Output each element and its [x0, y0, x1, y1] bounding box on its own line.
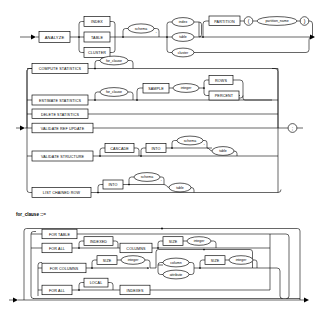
- dot-separator: .: [156, 28, 157, 34]
- placeholder-index-name: index: [172, 18, 194, 27]
- cascade-label: CASCADE: [110, 147, 129, 151]
- for-all-label-2: FOR ALL: [49, 289, 65, 293]
- exit-arrow-3: [300, 298, 309, 303]
- placeholder-cluster-name: cluster: [172, 48, 194, 57]
- keyword-size-3: SIZE: [205, 256, 225, 265]
- operation-estimate-statistics: ESTIMATE STATISTICS: [27, 95, 88, 105]
- semicolon-label: ;: [292, 125, 293, 131]
- for-clause-label: for_clause: [106, 59, 122, 63]
- objecttype-cluster: CLUSTER: [84, 48, 110, 58]
- operation-validate-structure: VALIDATE STRUCTURE: [27, 151, 93, 161]
- schema-label: schema: [135, 27, 147, 31]
- size-label-3: SIZE: [211, 259, 220, 263]
- table-label: TABLE: [91, 36, 103, 40]
- keyword-local: LOCAL: [84, 278, 108, 287]
- placeholder-table-2: table: [212, 147, 234, 156]
- keyword-size-2: SIZE: [97, 256, 117, 265]
- placeholder-attribute: attribute: [163, 270, 189, 279]
- indexes-label: INDEXES: [126, 289, 143, 293]
- branch-for-table: FOR TABLE: [31, 229, 77, 239]
- entry-arrow-3: [9, 298, 18, 303]
- integer-label: integer: [181, 86, 193, 90]
- partition-label: PARTITION: [214, 20, 235, 24]
- table-label-2: table: [219, 149, 227, 153]
- placeholder-table-3: table: [169, 183, 191, 192]
- placeholder-column: column: [163, 258, 189, 267]
- dot-separator-3: .: [161, 176, 162, 182]
- keyword-size-1: SIZE: [163, 237, 183, 246]
- placeholder-table-name: table: [172, 33, 194, 42]
- table-label-3: table: [176, 186, 184, 190]
- table-name-label: table: [179, 35, 187, 39]
- for-all-label-1: FOR ALL: [49, 247, 65, 251]
- placeholder-schema-3: schema: [134, 173, 160, 182]
- analyze-label: ANALYZE: [45, 35, 65, 40]
- validate-structure-label: VALIDATE STRUCTURE: [41, 155, 85, 159]
- sample-label: SAMPLE: [148, 87, 164, 91]
- index-name-label: index: [179, 20, 188, 24]
- partition-name-label: partition_name: [265, 19, 288, 23]
- for-table-label: FOR TABLE: [49, 233, 71, 237]
- entry-arrow-2: [16, 126, 25, 131]
- keyword-columns-1: COLUMNS: [120, 243, 152, 253]
- compute-statistics-label: COMPUTE STATISTICS: [39, 67, 82, 71]
- schema-label-3: schema: [141, 175, 153, 179]
- branch-for-columns: FOR COLUMNS: [38, 263, 86, 273]
- schema-label-2: schema: [184, 139, 196, 143]
- rows-label: ROWS: [215, 79, 227, 83]
- operation-validate-ref-update: VALIDATE REF UPDATE: [32, 123, 93, 133]
- keyword-cascade: CASCADE: [105, 144, 134, 153]
- into-label-2: INTO: [108, 183, 117, 187]
- placeholder-integer-3: integer: [229, 256, 253, 265]
- keyword-sample: SAMPLE: [143, 84, 169, 94]
- objecttype-index: INDEX: [84, 17, 110, 27]
- delete-statistics-label: DELETE STATISTICS: [41, 113, 80, 117]
- section-operations: COMPUTE STATISTICS for_clause ESTIMATE S…: [16, 56, 303, 197]
- operation-delete-statistics: DELETE STATISTICS: [27, 109, 88, 119]
- objecttype-table: TABLE: [84, 32, 110, 42]
- columns-label-1: COLUMNS: [126, 247, 146, 251]
- junction-dot: [147, 267, 149, 269]
- keyword-indexed: INDEXED: [84, 237, 113, 246]
- paren-close-1: ): [300, 17, 309, 26]
- keyword-rows: ROWS: [209, 76, 233, 85]
- cluster-name-label: cluster: [178, 51, 189, 55]
- percent-label: PERCENT: [215, 94, 234, 98]
- for-columns-label: FOR COLUMNS: [50, 267, 79, 271]
- placeholder-integer-1: integer: [187, 237, 211, 246]
- placeholder-integer-sample: integer: [173, 84, 199, 93]
- terminator-semicolon: ;: [288, 124, 297, 133]
- placeholder-integer-2: integer: [121, 256, 145, 265]
- keyword-analyze: ANALYZE: [39, 32, 70, 43]
- validate-ref-update-label: VALIDATE REF UPDATE: [41, 127, 85, 131]
- into-label-1: INTO: [151, 147, 160, 151]
- placeholder-partition-name: partition_name: [257, 17, 297, 26]
- for-clause-section-label: for_clause ::=: [16, 212, 46, 217]
- branch-for-all-indexed-columns: FOR ALL: [31, 243, 72, 253]
- keyword-partition: PARTITION: [209, 16, 240, 26]
- integer-label-1: integer: [194, 239, 206, 243]
- loop-junction-dot-2: [203, 249, 205, 251]
- operation-list-chained-row: LIST CHAINED ROW: [32, 188, 91, 198]
- keyword-percent: PERCENT: [209, 91, 239, 100]
- keyword-into-1: INTO: [146, 144, 166, 153]
- syntax-diagram-canvas: ANALYZE INDEX TABLE CLUSTER: [0, 0, 318, 320]
- index-label: INDEX: [91, 20, 103, 24]
- loop-junction-dot: [161, 228, 163, 230]
- paren-open-1: (: [244, 17, 253, 26]
- operation-compute-statistics: COMPUTE STATISTICS: [27, 64, 88, 74]
- column-label: column: [170, 261, 181, 265]
- size-label-1: SIZE: [169, 240, 178, 244]
- branch-for-all-local-indexes: FOR ALL: [38, 285, 72, 295]
- keyword-indexes: INDEXES: [120, 285, 150, 295]
- keyword-into-2: INTO: [103, 180, 123, 189]
- indexed-label: INDEXED: [90, 240, 107, 244]
- dot-separator-2: .: [204, 140, 205, 146]
- size-label-2: SIZE: [103, 259, 112, 263]
- placeholder-for-clause-2: for_clause: [100, 88, 128, 97]
- placeholder-schema-2: schema: [177, 136, 203, 145]
- integer-label-3: integer: [236, 258, 248, 262]
- section-analyze: ANALYZE INDEX TABLE CLUSTER: [20, 16, 315, 58]
- local-label: LOCAL: [90, 281, 103, 285]
- placeholder-schema-1: schema: [128, 24, 154, 33]
